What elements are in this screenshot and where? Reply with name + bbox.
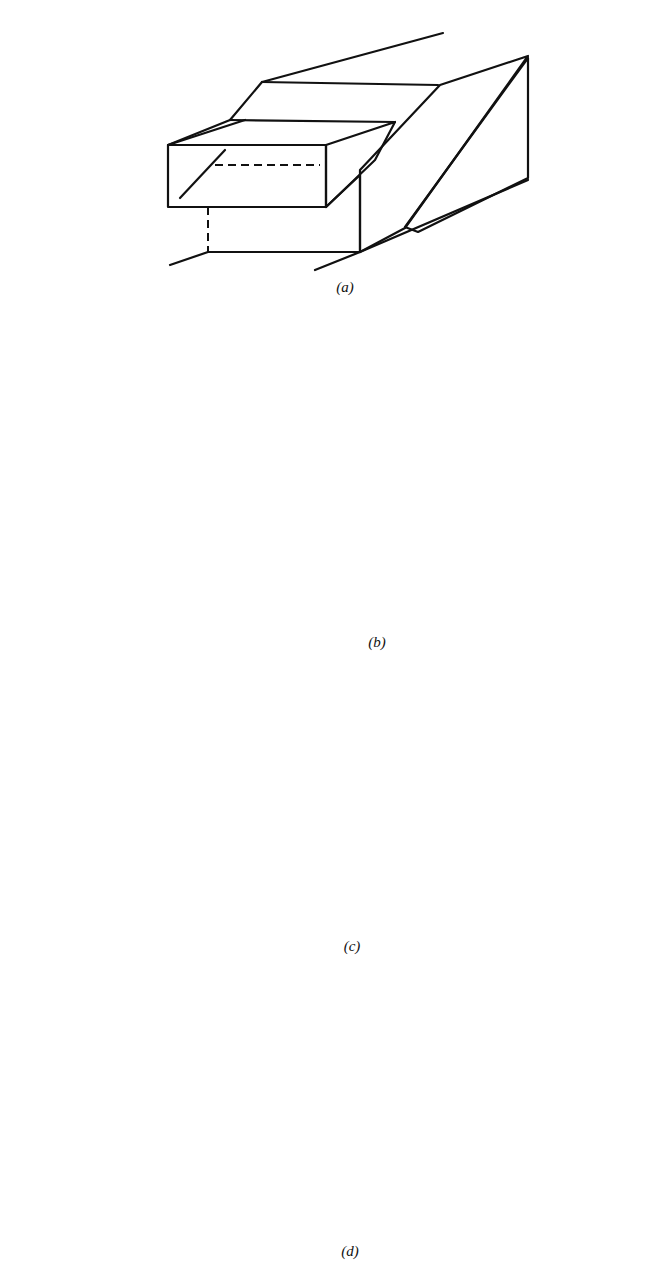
caption-c: (c) <box>344 938 361 955</box>
caption-d: (d) <box>341 1243 359 1260</box>
sliding-plane-face <box>360 56 528 252</box>
sliding-block <box>168 145 326 207</box>
caption-b: (b) <box>368 634 386 651</box>
caption-a: (a) <box>336 279 354 296</box>
panel-a <box>168 33 528 270</box>
slope-failure-figure <box>0 0 665 1275</box>
